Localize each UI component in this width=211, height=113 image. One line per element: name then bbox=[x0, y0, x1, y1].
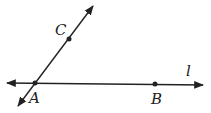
point-b bbox=[153, 82, 158, 87]
label-c: C bbox=[55, 21, 67, 39]
label-a: A bbox=[27, 89, 40, 107]
label-line-l: l bbox=[186, 62, 191, 80]
point-a bbox=[33, 81, 38, 86]
label-b: B bbox=[150, 90, 162, 108]
geometry-diagram: A B C l bbox=[0, 0, 211, 113]
point-c bbox=[67, 37, 72, 42]
